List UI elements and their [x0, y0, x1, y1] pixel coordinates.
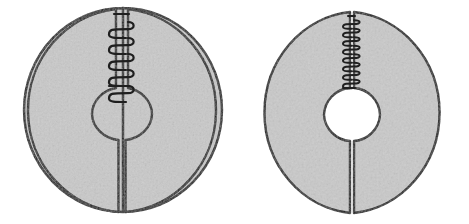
left-panel — [24, 8, 222, 212]
split-ring-spring-figure — [0, 0, 469, 224]
figure-root — [0, 0, 469, 224]
